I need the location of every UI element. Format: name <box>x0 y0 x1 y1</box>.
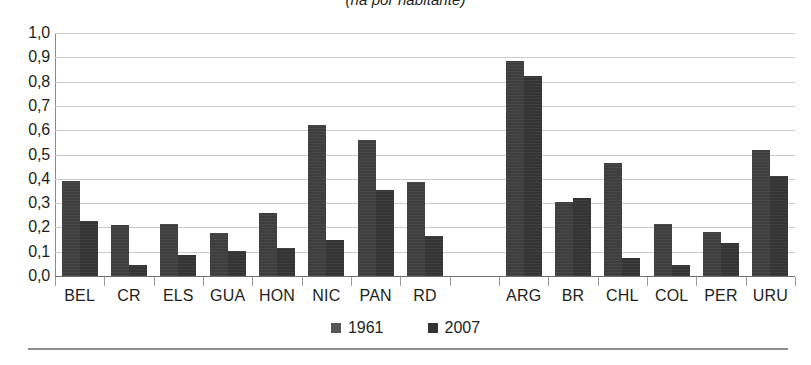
x-axis-ticks <box>55 277 795 286</box>
bar-chl-2007 <box>622 258 640 276</box>
x-axis-tick <box>203 277 204 286</box>
x-axis-tick <box>302 277 303 286</box>
bar-group <box>555 33 591 276</box>
chart-figure: (ha por habitante) 1,00,90,80,70,60,50,4… <box>0 0 811 365</box>
x-axis-tick <box>154 277 155 286</box>
y-axis-tick-labels: 1,00,90,80,70,60,50,40,30,20,10,0 <box>0 0 50 365</box>
y-axis-tick-label: 0,6 <box>6 122 50 138</box>
x-axis-tick-labels: BELCRELSGUAHONNICPANRDARGBRCHLCOLPERURU <box>55 286 795 310</box>
x-axis-tick-label: CR <box>104 286 153 306</box>
x-axis-tick <box>696 277 697 286</box>
bar-group <box>210 33 246 276</box>
legend-item-1961: 1961 <box>331 320 384 336</box>
bar-rd-1961 <box>407 182 425 276</box>
bar-br-2007 <box>573 198 591 276</box>
x-axis-tick <box>548 277 549 286</box>
bar-arg-2007 <box>524 76 542 276</box>
x-axis-tick <box>450 277 451 286</box>
bar-group <box>62 33 98 276</box>
legend-swatch-icon <box>331 323 341 333</box>
bar-pan-2007 <box>376 190 394 276</box>
bar-uru-1961 <box>752 150 770 276</box>
y-axis-tick-label: 0,7 <box>6 98 50 114</box>
x-axis-tick <box>55 277 56 286</box>
chart-title: (ha por habitante) <box>0 0 811 8</box>
bar-group <box>752 33 788 276</box>
bar-hon-2007 <box>277 248 295 276</box>
bar-hon-1961 <box>259 213 277 276</box>
bar-br-1961 <box>555 202 573 276</box>
bar-els-2007 <box>178 255 196 276</box>
bar-group <box>703 33 739 276</box>
x-axis-tick <box>647 277 648 286</box>
y-axis-tick-label: 0,3 <box>6 195 50 211</box>
x-axis-tick-label: ARG <box>499 286 548 306</box>
bar-col-1961 <box>654 224 672 276</box>
x-axis-tick <box>104 277 105 286</box>
x-axis-tick <box>746 277 747 286</box>
x-axis-tick-label: BR <box>548 286 597 306</box>
chart-legend: 19612007 <box>0 320 811 336</box>
x-axis-tick <box>400 277 401 286</box>
bar-bel-2007 <box>80 221 98 276</box>
x-axis-tick-label: URU <box>746 286 795 306</box>
y-axis-tick-label: 0,9 <box>6 49 50 65</box>
y-axis-tick-label: 0,2 <box>6 219 50 235</box>
y-axis-tick-label: 0,0 <box>6 268 50 284</box>
x-axis-tick <box>795 277 796 286</box>
bar-pan-1961 <box>358 140 376 276</box>
x-axis-tick <box>499 277 500 286</box>
x-axis-tick-label: RD <box>400 286 449 306</box>
x-axis-tick-label: NIC <box>302 286 351 306</box>
bar-group <box>407 33 443 276</box>
bar-per-1961 <box>703 232 721 276</box>
bar-gua-1961 <box>210 233 228 276</box>
bar-uru-2007 <box>770 176 788 276</box>
bar-per-2007 <box>721 243 739 276</box>
bar-nic-2007 <box>326 240 344 276</box>
bar-cr-1961 <box>111 225 129 276</box>
bar-bel-1961 <box>62 181 80 276</box>
legend-label: 1961 <box>348 320 384 336</box>
bar-group <box>654 33 690 276</box>
bar-group <box>308 33 344 276</box>
legend-item-2007: 2007 <box>428 320 481 336</box>
x-axis-tick-label: PAN <box>351 286 400 306</box>
legend-swatch-icon <box>428 323 438 333</box>
bar-els-1961 <box>160 224 178 276</box>
bar-group <box>111 33 147 276</box>
x-axis-tick-label: HON <box>252 286 301 306</box>
bar-col-2007 <box>672 265 690 276</box>
x-axis-tick-label: PER <box>696 286 745 306</box>
plot-area <box>55 33 795 276</box>
x-axis-tick-label: BEL <box>55 286 104 306</box>
bar-group <box>358 33 394 276</box>
x-axis-tick-label: CHL <box>598 286 647 306</box>
bar-nic-1961 <box>308 125 326 276</box>
x-axis-tick <box>598 277 599 286</box>
x-axis-tick-label: COL <box>647 286 696 306</box>
x-axis-tick <box>252 277 253 286</box>
bar-group <box>259 33 295 276</box>
bar-arg-1961 <box>506 61 524 276</box>
footer-divider <box>28 348 788 350</box>
legend-label: 2007 <box>445 320 481 336</box>
x-axis-tick-label: GUA <box>203 286 252 306</box>
y-axis-tick-label: 0,5 <box>6 147 50 163</box>
x-axis-tick <box>351 277 352 286</box>
bar-group <box>160 33 196 276</box>
bar-cr-2007 <box>129 265 147 276</box>
bar-group <box>604 33 640 276</box>
x-axis-tick-label: ELS <box>154 286 203 306</box>
y-axis-tick-label: 0,8 <box>6 74 50 90</box>
bar-rd-2007 <box>425 236 443 276</box>
y-axis-tick-label: 1,0 <box>6 25 50 41</box>
bar-chl-1961 <box>604 163 622 276</box>
bar-group <box>506 33 542 276</box>
bar-gua-2007 <box>228 251 246 277</box>
y-axis-tick-label: 0,1 <box>6 244 50 260</box>
y-axis-tick-label: 0,4 <box>6 171 50 187</box>
